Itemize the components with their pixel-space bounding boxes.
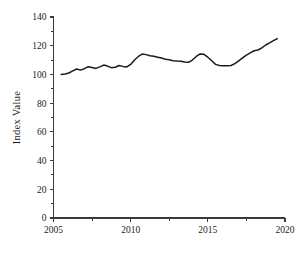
y-tick-label: 20 — [37, 185, 47, 195]
y-axis-title: Index Value — [11, 91, 22, 145]
y-tick-label: 40 — [37, 156, 47, 166]
line-chart: 020406080100120140 2005201020152020 Inde… — [0, 0, 301, 257]
y-tick-label: 0 — [42, 213, 47, 223]
x-tick-label: 2015 — [198, 225, 217, 235]
x-tick-label: 2020 — [276, 225, 295, 235]
x-tick-label: 2010 — [121, 225, 140, 235]
x-tick-labels: 2005201020152020 — [44, 225, 295, 235]
y-tick-label: 80 — [37, 99, 47, 109]
y-tick-labels: 020406080100120140 — [32, 12, 47, 223]
y-tick-label: 140 — [32, 12, 47, 22]
y-tick-label: 120 — [32, 41, 47, 51]
data-series-line — [61, 39, 277, 75]
x-tick-label: 2005 — [44, 225, 63, 235]
y-tick-label: 60 — [37, 127, 47, 137]
y-tick-label: 100 — [32, 70, 47, 80]
chart-figure: 020406080100120140 2005201020152020 Inde… — [0, 0, 301, 257]
